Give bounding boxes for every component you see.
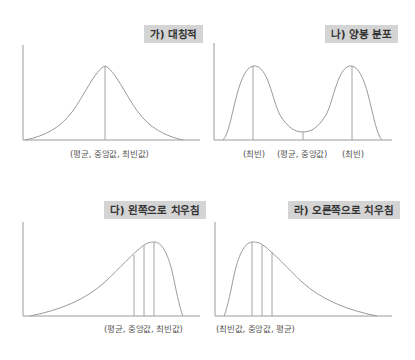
bimodal-caption-mode-left: (최빈) [243, 147, 265, 159]
right-skewed-caption: (최빈값, 중앙값, 평균) [216, 322, 295, 334]
normal-curve [25, 66, 183, 140]
left-skewed-caption: (평균, 중앙값, 최빈값) [104, 322, 183, 334]
left-skewed-title: 다) 왼쪽으로 치우침 [104, 201, 206, 219]
left-skewed-plot [23, 222, 200, 316]
bimodal-curve [223, 66, 382, 140]
bimodal-plot [214, 43, 392, 140]
right-skewed-curve [224, 242, 377, 316]
symmetric-title: 가) 대칭적 [144, 25, 203, 43]
symmetric-plot [23, 45, 200, 140]
left-skewed-curve [30, 242, 183, 316]
right-skewed-title: 라) 오른쪽으로 치우침 [288, 201, 400, 219]
bimodal-title: 나) 양봉 분포 [325, 25, 398, 43]
bimodal-caption-mode-right: (최빈) [342, 147, 364, 159]
distribution-plots [0, 0, 415, 360]
bimodal-caption-mean-median: (평균, 중앙값) [277, 147, 327, 159]
right-skewed-plot [215, 222, 392, 316]
symmetric-caption: (평균, 중앙값, 최빈값) [70, 147, 149, 159]
